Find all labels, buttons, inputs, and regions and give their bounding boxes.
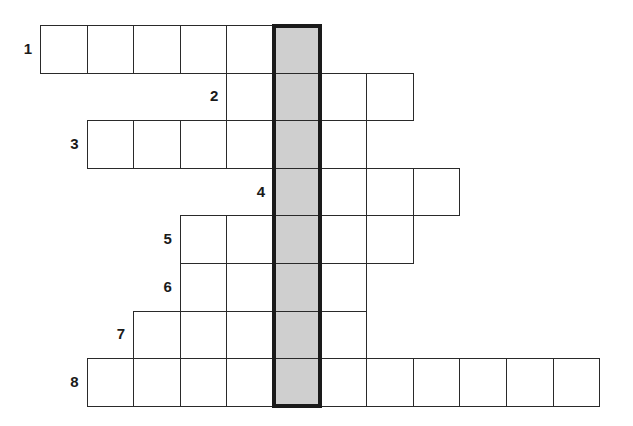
answer-cell[interactable] <box>226 311 274 360</box>
answer-cell[interactable] <box>459 358 507 407</box>
answer-cell[interactable] <box>320 311 368 360</box>
answer-cell[interactable] <box>366 168 414 217</box>
answer-cell[interactable] <box>133 311 181 360</box>
answer-cell[interactable] <box>87 358 135 407</box>
clue-number: 8 <box>59 373 79 390</box>
highlighted-answer-cell[interactable] <box>273 358 321 407</box>
clue-number: 3 <box>59 135 79 152</box>
highlighted-answer-cell[interactable] <box>273 25 321 74</box>
answer-cell[interactable] <box>40 25 88 74</box>
clue-number: 1 <box>12 40 32 57</box>
answer-cell[interactable] <box>180 263 228 312</box>
answer-cell[interactable] <box>226 73 274 122</box>
answer-cell[interactable] <box>366 358 414 407</box>
answer-cell[interactable] <box>320 168 368 217</box>
highlighted-answer-cell[interactable] <box>273 73 321 122</box>
highlighted-answer-cell[interactable] <box>273 168 321 217</box>
highlighted-answer-cell[interactable] <box>273 120 321 169</box>
highlighted-answer-cell[interactable] <box>273 311 321 360</box>
answer-cell[interactable] <box>226 25 274 74</box>
answer-cell[interactable] <box>133 120 181 169</box>
clue-number: 2 <box>198 87 218 104</box>
clue-number: 6 <box>152 278 172 295</box>
answer-cell[interactable] <box>226 215 274 264</box>
answer-cell[interactable] <box>366 215 414 264</box>
answer-cell[interactable] <box>87 120 135 169</box>
answer-cell[interactable] <box>226 263 274 312</box>
answer-cell[interactable] <box>413 358 461 407</box>
answer-cell[interactable] <box>180 120 228 169</box>
answer-cell[interactable] <box>320 120 368 169</box>
answer-cell[interactable] <box>320 263 368 312</box>
answer-cell[interactable] <box>366 73 414 122</box>
answer-cell[interactable] <box>320 215 368 264</box>
answer-cell[interactable] <box>506 358 554 407</box>
answer-cell[interactable] <box>180 358 228 407</box>
answer-cell[interactable] <box>413 168 461 217</box>
answer-cell[interactable] <box>553 358 601 407</box>
highlighted-answer-cell[interactable] <box>273 215 321 264</box>
crossword-grid: 12345678 <box>0 0 633 426</box>
answer-cell[interactable] <box>180 311 228 360</box>
highlighted-answer-cell[interactable] <box>273 263 321 312</box>
answer-cell[interactable] <box>87 25 135 74</box>
clue-number: 4 <box>245 183 265 200</box>
answer-cell[interactable] <box>226 120 274 169</box>
answer-cell[interactable] <box>133 25 181 74</box>
answer-cell[interactable] <box>180 215 228 264</box>
clue-number: 5 <box>152 230 172 247</box>
clue-number: 7 <box>105 325 125 342</box>
answer-cell[interactable] <box>133 358 181 407</box>
answer-cell[interactable] <box>320 358 368 407</box>
answer-cell[interactable] <box>226 358 274 407</box>
answer-cell[interactable] <box>320 73 368 122</box>
answer-cell[interactable] <box>180 25 228 74</box>
